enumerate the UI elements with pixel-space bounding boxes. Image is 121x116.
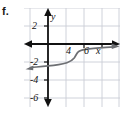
x-axis-label: x <box>96 46 100 56</box>
x-tick-label-6: 6 <box>84 46 89 56</box>
y-tick-label-neg6: -6 <box>30 93 38 103</box>
y-axis-label: y <box>51 12 55 22</box>
y-tick-label-neg4: -4 <box>30 75 38 85</box>
y-tick-label-neg2: -2 <box>30 57 38 67</box>
y-tick-label-2: 2 <box>32 21 37 31</box>
coordinate-graph: 2 -2 -4 -6 4 6 y x <box>24 8 120 107</box>
plot-background <box>24 8 120 107</box>
figure-container: f. <box>0 0 121 116</box>
part-label: f. <box>2 6 9 17</box>
x-tick-label-4: 4 <box>66 46 71 56</box>
graph-svg <box>24 8 120 107</box>
